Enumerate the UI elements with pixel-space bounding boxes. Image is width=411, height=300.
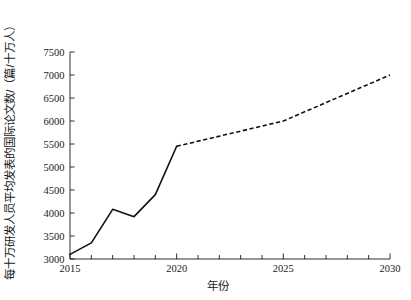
chart-figure: 3000350040004500500055006000650070007500… (0, 0, 411, 300)
y-tick-label: 7000 (44, 70, 65, 81)
x-axis-label: 年份 (0, 277, 411, 293)
y-tick-label: 5000 (44, 162, 65, 173)
x-tick-label: 2030 (380, 263, 401, 274)
series-line-projected (177, 75, 390, 146)
x-axis-tick-labels: 2015202020252030 (60, 263, 401, 274)
x-axis-label-text: 年份 (207, 280, 229, 292)
x-tick-label: 2025 (273, 263, 294, 274)
y-axis-label-text: 每十万研发人员平均发表的国际论文数/（篇/十万人） (5, 20, 17, 279)
y-tick-label: 3500 (44, 231, 65, 242)
x-axis-tick-marks (70, 254, 390, 260)
series-line-observed (70, 146, 177, 254)
y-axis-tick-labels: 3000350040004500500055006000650070007500 (44, 47, 65, 265)
y-tick-label: 6500 (44, 93, 65, 104)
y-tick-label: 7500 (44, 47, 65, 58)
y-axis-label: 每十万研发人员平均发表的国际论文数/（篇/十万人） (0, 0, 22, 300)
y-tick-label: 5500 (44, 139, 65, 150)
line-chart-plot: 3000350040004500500055006000650070007500… (0, 0, 411, 300)
x-tick-label: 2020 (166, 263, 187, 274)
y-tick-label: 4500 (44, 185, 65, 196)
y-tick-label: 4000 (44, 208, 65, 219)
y-tick-label: 6000 (44, 116, 65, 127)
y-axis-tick-marks (70, 52, 75, 259)
x-tick-label: 2015 (60, 263, 81, 274)
